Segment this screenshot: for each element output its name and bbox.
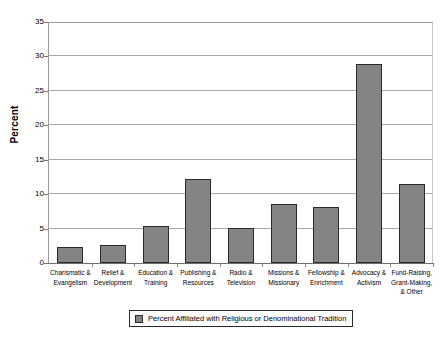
bar-slot: [305, 22, 348, 263]
x-axis-category-label-line: & Other: [386, 287, 437, 297]
x-axis-category-label: Fund-Raising,Grant-Making,& Other: [386, 268, 437, 297]
bar-slot: [220, 22, 263, 263]
bar[interactable]: [356, 64, 382, 263]
y-axis-tick-mark: [44, 194, 48, 195]
chart-legend: Percent Affiliated with Religious or Den…: [129, 310, 353, 327]
x-axis-tick-mark: [433, 264, 434, 267]
y-axis-tick-mark: [44, 56, 48, 57]
y-axis-tick-label: 25: [26, 87, 44, 95]
x-axis-tick-mark: [220, 264, 221, 267]
y-axis-tick-label: 30: [26, 52, 44, 60]
bar-slot: [177, 22, 220, 263]
bar-slot: [390, 22, 433, 263]
bar-slot: [262, 22, 305, 263]
y-axis-tick-mark: [44, 91, 48, 92]
bar[interactable]: [185, 179, 211, 263]
x-axis-tick-mark: [390, 264, 391, 267]
y-axis-tick-mark: [44, 125, 48, 126]
x-axis-category-label-line: Fund-Raising,: [386, 268, 437, 278]
x-axis-tick-mark: [177, 264, 178, 267]
bar-slot: [49, 22, 92, 263]
bar[interactable]: [313, 207, 339, 263]
bar[interactable]: [228, 228, 254, 263]
x-axis-tick-mark: [305, 264, 306, 267]
legend-label: Percent Affiliated with Religious or Den…: [148, 314, 346, 323]
x-axis-tick-mark: [348, 264, 349, 267]
y-axis-tick-label: 10: [26, 190, 44, 198]
y-axis-tick-label: 5: [26, 225, 44, 233]
bar-slot: [134, 22, 177, 263]
x-axis-category-label-line: Grant-Making,: [386, 278, 437, 288]
bar[interactable]: [57, 247, 83, 263]
bar-chart: Percent 05101520253035 Charismatic &Evan…: [0, 0, 445, 349]
y-axis-tick-label: 15: [26, 156, 44, 164]
y-axis-title: Percent: [9, 90, 20, 160]
x-axis-tick-mark: [92, 264, 93, 267]
y-axis-tick-labels: 05101520253035: [22, 22, 44, 263]
x-axis-tick-mark: [134, 264, 135, 267]
x-axis-tick-mark: [262, 264, 263, 267]
legend-swatch-icon: [135, 315, 143, 323]
bar-slot: [92, 22, 135, 263]
y-axis-tick-label: 20: [26, 121, 44, 129]
bars-layer: [49, 22, 433, 263]
y-axis-tick-label: 35: [26, 18, 44, 26]
bar[interactable]: [271, 204, 297, 263]
y-axis-tick-mark: [44, 229, 48, 230]
bar[interactable]: [143, 226, 169, 263]
y-axis-tick-mark: [44, 22, 48, 23]
y-axis-tick-mark: [44, 160, 48, 161]
bar-slot: [348, 22, 391, 263]
y-axis-tick-mark: [44, 263, 48, 264]
x-axis-category-labels: Charismatic &EvangelismRelief &Developme…: [49, 268, 433, 310]
bar[interactable]: [100, 245, 126, 263]
x-axis-line: [48, 263, 434, 264]
bar[interactable]: [399, 184, 425, 263]
y-axis-tick-label: 0: [26, 259, 44, 267]
